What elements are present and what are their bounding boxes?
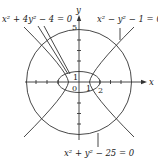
tick-label-x-1: 1 bbox=[86, 84, 91, 93]
y-axis-label: y bbox=[75, 5, 81, 15]
x-axis-arrow-icon bbox=[141, 80, 147, 84]
x-axis-label: x bbox=[149, 77, 154, 87]
ellipse-leader-line-2 bbox=[44, 26, 70, 74]
tick-label-x-2: 2 bbox=[98, 86, 103, 95]
y-axis-arrow-icon bbox=[77, 15, 81, 21]
ellipse-equation-label: x² + 4y² − 4 = 0 bbox=[2, 14, 73, 24]
circle-equation-label: x² + y² − 25 = 0 bbox=[64, 148, 135, 158]
origin-label: 0 bbox=[72, 84, 77, 93]
tick-label-y-1: 1 bbox=[73, 73, 78, 82]
conic-sections-diagram: x y 5 1 0 1 2 x² + 4y² − 4 = 0 x² − y² −… bbox=[0, 0, 158, 166]
hyperbola-equation-label: x² − y² − 1 = 0 bbox=[97, 14, 158, 24]
tick-label-y-5: 5 bbox=[72, 23, 77, 32]
ellipse-leader-line bbox=[38, 26, 68, 74]
